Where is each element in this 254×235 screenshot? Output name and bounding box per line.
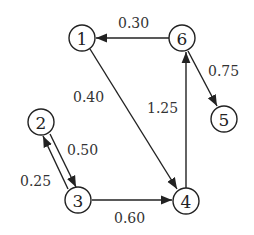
node-5-label: 5 bbox=[219, 110, 230, 130]
edge-label-1-4: 0.40 bbox=[73, 89, 104, 105]
node-6: 6 bbox=[169, 25, 195, 51]
node-3-label: 3 bbox=[73, 191, 84, 211]
node-4: 4 bbox=[173, 188, 199, 214]
node-3: 3 bbox=[65, 187, 91, 213]
edge-label-3-2: 0.25 bbox=[20, 173, 51, 189]
edge-label-4-6: 1.25 bbox=[147, 100, 178, 116]
edge-label-2-3: 0.50 bbox=[67, 142, 98, 158]
node-1-label: 1 bbox=[77, 29, 88, 49]
edge-label-3-4: 0.60 bbox=[114, 210, 145, 226]
node-2: 2 bbox=[28, 109, 54, 135]
node-1: 1 bbox=[69, 25, 95, 51]
edge-label-6-1: 0.30 bbox=[118, 15, 149, 31]
node-2-label: 2 bbox=[36, 113, 47, 133]
node-4-label: 4 bbox=[181, 192, 192, 212]
graph-canvas: 0.30 0.40 1.25 0.75 0.50 0.25 0.60 1 6 2… bbox=[0, 0, 254, 235]
node-6-label: 6 bbox=[177, 29, 188, 49]
node-5: 5 bbox=[211, 106, 237, 132]
edge-1-to-4 bbox=[90, 49, 177, 189]
edge-label-6-5: 0.75 bbox=[208, 63, 239, 79]
